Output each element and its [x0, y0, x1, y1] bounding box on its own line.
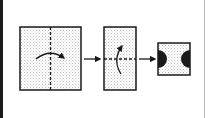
step-3-small-square: [158, 43, 190, 75]
step-1-square: [20, 27, 81, 90]
step-2-rectangle: [104, 27, 136, 90]
sequence-diagram: [0, 0, 208, 118]
